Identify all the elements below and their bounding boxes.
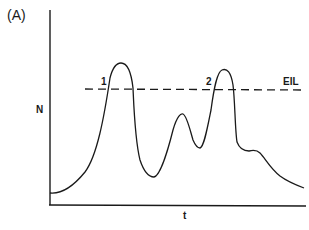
crossing-label-2: 2 — [206, 77, 212, 87]
panel-label: (A) — [7, 8, 26, 22]
x-axis — [49, 205, 306, 206]
eil-threshold-line — [85, 89, 306, 90]
population-diagram — [0, 0, 309, 230]
crossing-label-1: 1 — [101, 77, 107, 87]
x-axis-label: t — [183, 211, 186, 221]
y-axis-label: N — [36, 105, 43, 115]
threshold-label: EIL — [283, 77, 299, 87]
population-curve — [50, 63, 304, 193]
